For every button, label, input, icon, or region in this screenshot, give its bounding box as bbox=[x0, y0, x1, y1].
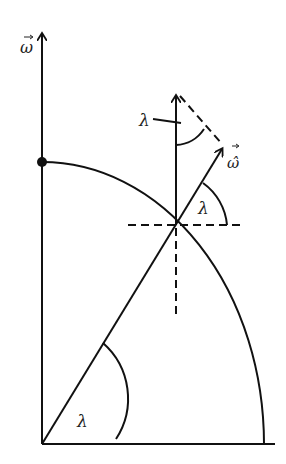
svg-text:ω̂: ω̂ bbox=[227, 154, 239, 172]
angle-arc-bottom bbox=[103, 343, 128, 439]
meridian-arc bbox=[42, 162, 264, 444]
omega-axis-label: ω bbox=[20, 35, 33, 57]
pole-dot bbox=[37, 157, 47, 167]
radial-omega-hat-vector bbox=[42, 149, 222, 444]
connector-dashed-line bbox=[180, 96, 222, 144]
lambda-label-right: λ bbox=[197, 198, 209, 218]
lambda-label-bottom: λ bbox=[76, 411, 88, 431]
lambda-label-top: λ bbox=[138, 110, 150, 130]
svg-text:ω: ω bbox=[20, 38, 33, 57]
latitude-diagram: ω ω̂ λ λ λ bbox=[0, 0, 286, 464]
angle-arc-top bbox=[176, 129, 204, 145]
omega-hat-label: ω̂ bbox=[227, 144, 239, 172]
